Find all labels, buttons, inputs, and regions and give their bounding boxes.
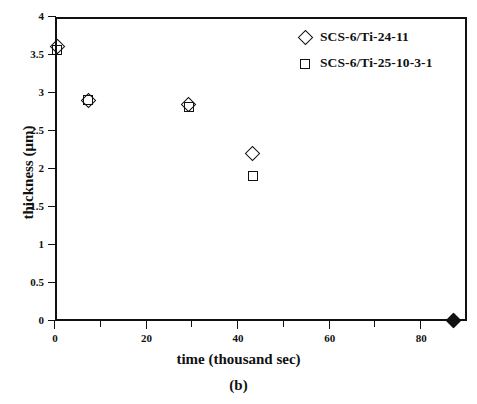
y-tick-label: 4 (4, 11, 44, 22)
y-tick-mark (48, 16, 56, 17)
figure-panel: 00.511.522.533.54 020406080 thickness (μ… (0, 0, 477, 404)
y-tick-mark (48, 206, 56, 207)
legend: SCS-6/Ti-24-11 SCS-6/Ti-25-10-3-1 (296, 24, 433, 76)
x-tick-label: 40 (218, 333, 258, 344)
legend-item-label: SCS-6/Ti-24-11 (314, 29, 409, 45)
x-tick-mark (237, 321, 238, 329)
y-tick-mark (48, 244, 56, 245)
x-tick-mark (54, 321, 55, 329)
diamond-icon (296, 30, 314, 44)
x-minor-tick-mark (283, 321, 284, 327)
x-minor-tick-mark (191, 321, 192, 327)
x-tick-label: 0 (35, 333, 75, 344)
x-tick-mark (146, 321, 147, 329)
x-tick-mark (420, 321, 421, 329)
legend-item-scs6-ti-25-10-3-1: SCS-6/Ti-25-10-3-1 (296, 50, 433, 76)
x-tick-label: 60 (310, 333, 350, 344)
x-tick-label: 20 (127, 333, 167, 344)
y-tick-label: 0 (4, 315, 44, 326)
legend-item-scs6-ti-24-11: SCS-6/Ti-24-11 (296, 24, 433, 50)
x-minor-tick-mark (374, 321, 375, 327)
y-tick-label: 3.5 (4, 49, 44, 60)
y-tick-mark (48, 130, 56, 131)
x-minor-tick-mark (100, 321, 101, 327)
square-icon (296, 56, 314, 70)
y-tick-label: 0.5 (4, 277, 44, 288)
x-axis-title: time (thousand sec) (0, 351, 477, 368)
legend-item-label: SCS-6/Ti-25-10-3-1 (314, 55, 433, 71)
x-tick-label: 80 (401, 333, 441, 344)
y-tick-mark (48, 282, 56, 283)
figure-caption: (b) (0, 377, 477, 394)
y-tick-mark (48, 168, 56, 169)
y-tick-mark (48, 92, 56, 93)
y-tick-mark (48, 54, 56, 55)
x-tick-mark (329, 321, 330, 329)
y-axis-title: thickness (μm) (20, 73, 37, 273)
